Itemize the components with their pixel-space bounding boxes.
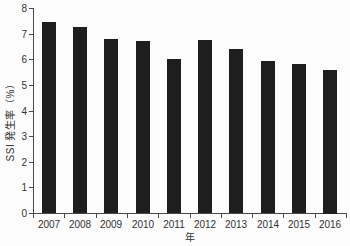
y-axis-tick	[29, 111, 33, 112]
y-axis-title: SSI 発生率（%）	[2, 79, 17, 162]
bar-2014	[261, 61, 275, 213]
bar-2016	[323, 70, 337, 214]
x-axis-tick	[127, 214, 128, 218]
x-axis-tick	[33, 214, 34, 218]
y-tick-label: 2	[7, 157, 27, 168]
x-axis-tick	[158, 214, 159, 218]
bar-2008	[73, 27, 87, 213]
ssi-incidence-bar-chart: SSI 発生率（%） 01234567820072008200920102011…	[0, 0, 350, 246]
y-axis-tick	[29, 162, 33, 163]
y-tick-label: 7	[7, 29, 27, 40]
y-tick-label: 5	[7, 80, 27, 91]
bar-2012	[198, 40, 212, 213]
y-axis-line	[33, 8, 34, 213]
y-axis-tick	[29, 136, 33, 137]
x-axis-tick	[283, 214, 284, 218]
bar-2013	[229, 49, 243, 213]
bar-2010	[136, 41, 150, 213]
y-tick-label: 3	[7, 131, 27, 142]
y-axis-tick	[29, 187, 33, 188]
x-axis-tick	[64, 214, 65, 218]
x-axis-tick	[346, 214, 347, 218]
x-axis-tick	[252, 214, 253, 218]
x-axis-tick	[190, 214, 191, 218]
y-tick-label: 1	[7, 182, 27, 193]
bar-2007	[42, 22, 56, 213]
bar-2009	[104, 39, 118, 213]
x-axis-tick	[221, 214, 222, 218]
y-axis-tick	[29, 85, 33, 86]
bar-2015	[292, 64, 306, 213]
y-axis-tick	[29, 34, 33, 35]
y-tick-label: 8	[7, 3, 27, 14]
y-tick-label: 0	[7, 208, 27, 219]
bar-2011	[167, 59, 181, 213]
x-axis-tick	[96, 214, 97, 218]
x-axis-title: 年	[33, 229, 346, 244]
x-axis-tick	[315, 214, 316, 218]
y-tick-label: 4	[7, 106, 27, 117]
y-axis-tick	[29, 8, 33, 9]
y-axis-tick	[29, 59, 33, 60]
y-tick-label: 6	[7, 54, 27, 65]
